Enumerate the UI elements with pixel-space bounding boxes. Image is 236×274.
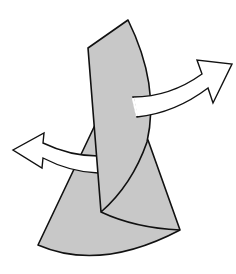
diagram-svg bbox=[0, 0, 236, 274]
folding-diagram bbox=[0, 0, 236, 274]
